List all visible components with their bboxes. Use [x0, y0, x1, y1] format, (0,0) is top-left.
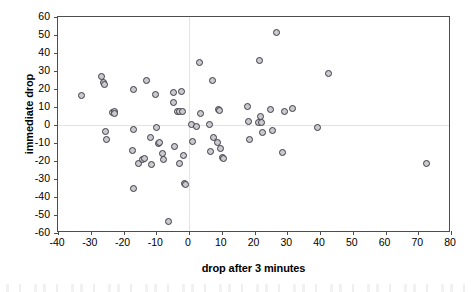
data-point — [246, 136, 253, 143]
data-point — [130, 185, 137, 192]
x-tick-mark — [386, 231, 387, 235]
data-point — [176, 160, 183, 167]
data-point — [165, 218, 172, 225]
y-tick-mark — [54, 125, 58, 126]
data-point — [147, 134, 154, 141]
data-point — [170, 89, 177, 96]
x-axis-title: drop after 3 minutes — [57, 262, 450, 274]
plot-area — [57, 16, 450, 232]
y-tick-mark — [54, 179, 58, 180]
x-tick-mark — [451, 231, 452, 235]
data-point — [130, 86, 137, 93]
y-tick-label: 30 — [14, 65, 50, 75]
data-point — [182, 181, 189, 188]
data-point — [314, 124, 321, 131]
data-point — [179, 108, 186, 115]
data-point — [178, 88, 185, 95]
y-tick-label: -40 — [14, 191, 50, 201]
y-tick-mark — [54, 71, 58, 72]
y-tick-mark — [54, 197, 58, 198]
y-tick-label: 60 — [14, 11, 50, 21]
x-tick-mark — [353, 231, 354, 235]
x-tick-mark — [418, 231, 419, 235]
y-tick-mark — [54, 107, 58, 108]
y-tick-mark — [54, 89, 58, 90]
data-point — [244, 103, 251, 110]
data-point — [170, 99, 177, 106]
data-point — [220, 155, 227, 162]
x-tick-mark — [91, 231, 92, 235]
data-point — [111, 110, 118, 117]
x-tick-mark — [287, 231, 288, 235]
data-point — [130, 126, 137, 133]
scatter-chart: immediate drop 6050403020100-10-20-30-40… — [0, 0, 471, 292]
data-point — [152, 91, 159, 98]
scan-artifact — [0, 284, 471, 292]
data-point — [193, 123, 200, 130]
data-point — [325, 70, 332, 77]
data-point — [269, 127, 276, 134]
data-point — [206, 121, 213, 128]
data-point — [209, 77, 216, 84]
x-tick-mark — [156, 231, 157, 235]
data-point — [148, 161, 155, 168]
data-point — [207, 148, 214, 155]
y-tick-label: 0 — [14, 119, 50, 129]
x-tick-mark — [124, 231, 125, 235]
y-tick-label: 10 — [14, 101, 50, 111]
data-point — [103, 136, 110, 143]
x-tick-label: 80 — [430, 237, 470, 247]
data-point — [189, 138, 196, 145]
data-point — [160, 156, 167, 163]
data-point — [180, 152, 187, 159]
data-point — [171, 143, 178, 150]
data-point — [101, 81, 108, 88]
x-tick-mark — [255, 231, 256, 235]
y-tick-label: 20 — [14, 83, 50, 93]
y-tick-mark — [54, 161, 58, 162]
x-tick-mark — [189, 231, 190, 235]
data-point — [267, 106, 274, 113]
y-zero-line — [58, 125, 449, 126]
data-point — [78, 92, 85, 99]
data-point — [196, 59, 203, 66]
y-tick-label: -50 — [14, 209, 50, 219]
data-point — [279, 149, 286, 156]
y-tick-mark — [54, 143, 58, 144]
y-tick-label: -10 — [14, 137, 50, 147]
y-tick-label: 40 — [14, 47, 50, 57]
y-tick-label: -20 — [14, 155, 50, 165]
y-tick-label: -60 — [14, 227, 50, 237]
y-tick-mark — [54, 17, 58, 18]
y-tick-mark — [54, 215, 58, 216]
data-point — [259, 129, 266, 136]
data-point — [423, 160, 430, 167]
y-tick-label: -30 — [14, 173, 50, 183]
data-point — [156, 139, 163, 146]
data-point — [289, 105, 296, 112]
y-tick-mark — [54, 53, 58, 54]
data-point — [102, 128, 109, 135]
y-tick-label: 50 — [14, 29, 50, 39]
data-point — [141, 155, 148, 162]
x-tick-mark — [320, 231, 321, 235]
data-point — [129, 147, 136, 154]
data-point — [197, 110, 204, 117]
data-point — [281, 108, 288, 115]
data-point — [256, 57, 263, 64]
data-point — [217, 145, 224, 152]
y-tick-mark — [54, 35, 58, 36]
data-point — [216, 107, 223, 114]
data-point — [153, 124, 160, 131]
x-tick-mark — [222, 231, 223, 235]
data-point — [273, 29, 280, 36]
x-tick-mark — [58, 231, 59, 235]
data-point — [143, 77, 150, 84]
